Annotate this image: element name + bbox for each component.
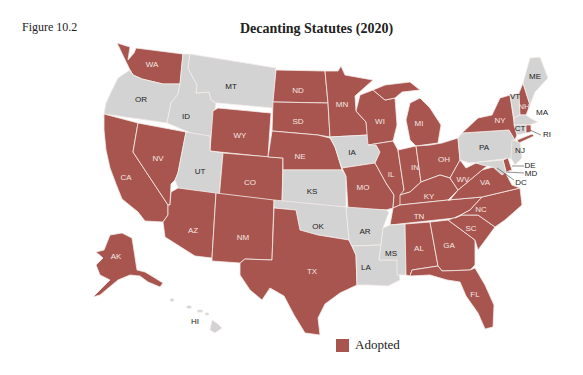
state-label-wa: WA — [146, 60, 159, 69]
state-label-ky: KY — [424, 192, 435, 201]
state-ak[interactable] — [93, 233, 163, 297]
state-label-id: ID — [182, 112, 190, 121]
state-label-me: ME — [529, 72, 541, 81]
state-label-oh: OH — [438, 155, 450, 164]
state-mi-lower[interactable] — [406, 98, 441, 146]
state-label-ks: KS — [307, 187, 318, 196]
state-label-wi: WI — [375, 117, 385, 126]
state-label-ak: AK — [111, 252, 122, 261]
state-label-or: OR — [135, 95, 147, 104]
state-label-al: AL — [414, 244, 424, 253]
state-label-sd: SD — [292, 117, 303, 126]
state-label-ok: OK — [312, 222, 324, 231]
state-label-nj: NJ — [515, 146, 525, 155]
state-label-az: AZ — [188, 226, 198, 235]
state-label-ri: RI — [543, 130, 551, 139]
state-label-md: MD — [525, 169, 538, 178]
state-label-ar: AR — [359, 227, 370, 236]
state-label-co: CO — [244, 178, 256, 187]
legend: Adopted — [336, 337, 400, 353]
state-label-nc: NC — [475, 205, 487, 214]
state-label-ms: MS — [385, 249, 397, 258]
legend-label-adopted: Adopted — [355, 337, 400, 353]
state-fl[interactable] — [410, 266, 494, 329]
state-label-ga: GA — [443, 241, 455, 250]
state-label-la: LA — [361, 263, 371, 272]
state-az[interactable] — [163, 188, 216, 258]
state-label-in: IN — [411, 163, 419, 172]
state-ny-long-island[interactable] — [517, 134, 534, 143]
state-label-vt: VT — [510, 92, 520, 101]
state-label-dc: DC — [515, 178, 527, 187]
state-label-nm: NM — [237, 233, 250, 242]
state-label-ct: CT — [515, 124, 526, 133]
state-label-sc: SC — [465, 224, 476, 233]
state-hi[interactable] — [170, 299, 222, 334]
state-label-il: IL — [388, 170, 395, 179]
state-label-tx: TX — [307, 267, 318, 276]
state-label-tn: TN — [414, 212, 425, 221]
state-label-ut: UT — [195, 167, 206, 176]
state-nm[interactable] — [212, 193, 274, 263]
state-label-nh: NH — [518, 102, 530, 111]
state-label-ne: NE — [294, 152, 305, 161]
state-label-ny: NY — [494, 116, 506, 125]
state-label-ca: CA — [120, 173, 132, 182]
legend-swatch-adopted — [336, 339, 349, 352]
state-label-mt: MT — [225, 82, 237, 91]
state-label-fl: FL — [470, 290, 480, 299]
state-label-wy: WY — [234, 131, 248, 140]
state-label-nd: ND — [292, 86, 304, 95]
state-ri[interactable] — [526, 125, 531, 133]
state-label-nv: NV — [152, 154, 164, 163]
state-label-hi: HI — [191, 317, 199, 326]
md-leader-line — [506, 172, 524, 173]
state-label-ia: IA — [348, 148, 356, 157]
us-choropleth-map: WAORCANVIDMTWYUTCOAZNMNDSDNEKSOKTXMNIAMO… — [0, 0, 583, 375]
state-label-wv: WV — [457, 175, 471, 184]
state-label-va: VA — [480, 178, 491, 187]
state-label-mn: MN — [336, 100, 349, 109]
state-label-pa: PA — [479, 143, 490, 152]
state-label-mo: MO — [357, 183, 370, 192]
state-label-ma: MA — [536, 108, 549, 117]
state-label-mi: MI — [415, 119, 424, 128]
